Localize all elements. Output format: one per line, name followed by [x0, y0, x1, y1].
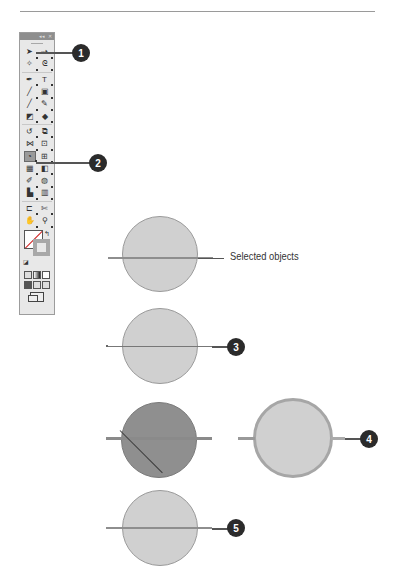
scale-tool[interactable]: ⧉	[39, 126, 51, 137]
flyout-indicator	[51, 84, 53, 86]
width-icon: ⋈	[26, 140, 34, 148]
flyout-indicator	[36, 57, 38, 59]
screen-mode-icon[interactable]	[30, 292, 44, 302]
paintbrush-tool[interactable]: ╱	[24, 99, 36, 110]
draw-normal-button[interactable]	[24, 281, 32, 289]
mesh-icon: ▦	[26, 165, 34, 173]
rotate-tool[interactable]: ↺	[24, 126, 36, 137]
lasso-tool[interactable]: ᘓ	[39, 59, 51, 70]
pencil-tool[interactable]: ✎	[39, 99, 51, 110]
callout-2-badge: 2	[89, 154, 107, 172]
gradient-button[interactable]	[33, 271, 41, 279]
artboard-icon: ⊏	[26, 205, 33, 213]
stroke-swatch[interactable]	[33, 239, 50, 256]
tool-separator	[22, 124, 52, 125]
blend-tool[interactable]: ◍	[39, 176, 51, 187]
slice-tool[interactable]: ✄	[39, 203, 51, 214]
perspective-grid-icon: ⊞	[41, 153, 48, 161]
flyout-indicator	[36, 173, 38, 175]
callout-1-badge: 1	[72, 44, 90, 62]
flyout-indicator	[36, 84, 38, 86]
fill-stroke-control: ↰ ◪	[23, 229, 51, 269]
flyout-indicator	[51, 121, 53, 123]
flyout-indicator	[36, 226, 38, 228]
collapse-icon[interactable]: ◂◂	[39, 34, 45, 39]
callout-4-badge: 4	[360, 430, 378, 448]
eyedropper-tool[interactable]: ✐	[24, 176, 36, 187]
default-fill-stroke-icon[interactable]: ◪	[23, 258, 29, 265]
callout-5-badge: 5	[227, 519, 245, 537]
draw-behind-button[interactable]	[33, 281, 41, 289]
rectangle-tool[interactable]: ▣	[39, 87, 51, 98]
path-highlighted[interactable]	[106, 437, 212, 440]
free-transform-tool[interactable]: ⊡	[39, 139, 51, 150]
callout-4-leader	[345, 438, 361, 440]
slice-icon: ✄	[41, 205, 48, 213]
blob-brush-icon: ◩	[26, 113, 34, 121]
gradient-tool[interactable]: ◧	[39, 163, 51, 174]
scale-icon: ⧉	[42, 128, 48, 136]
selection-tool[interactable]: ➤	[24, 47, 36, 58]
shape-builder-tool[interactable]: ◔	[24, 151, 36, 162]
circle-selected[interactable]	[122, 216, 198, 292]
tool-row: ▙▥	[20, 187, 54, 199]
flyout-indicator	[36, 121, 38, 123]
line-segment-icon: ╱	[27, 88, 32, 96]
path-step3[interactable]	[106, 346, 212, 347]
rectangle-icon: ▣	[41, 88, 49, 96]
path-stub-right[interactable]	[331, 437, 345, 440]
color-mode-row	[20, 271, 54, 279]
tools-panel: ◂◂ ✕ ➤⇢✧ᘓ✒T╱▣╱✎◩◆↺⧉⋈⊡◔⊞▦◧✐◍▙▥⊏✄✋⚲ ↰ ◪	[19, 32, 55, 315]
perspective-grid-tool[interactable]: ⊞	[39, 151, 51, 162]
tool-row: ◩◆	[20, 110, 54, 122]
eyedropper-icon: ✐	[26, 177, 33, 185]
zoom-tool[interactable]: ⚲	[39, 216, 51, 227]
callout-1-leader	[36, 52, 74, 54]
blend-icon: ◍	[41, 177, 48, 185]
panel-grip[interactable]	[31, 43, 43, 44]
circle-merged[interactable]	[253, 398, 333, 478]
shape-builder-icon: ◔	[27, 153, 32, 161]
pencil-icon: ✎	[41, 100, 48, 108]
flyout-indicator	[51, 57, 53, 59]
tool-separator	[22, 201, 52, 202]
hand-icon: ✋	[25, 217, 35, 225]
path-anchor-left	[106, 345, 108, 347]
zoom-icon: ⚲	[42, 217, 48, 225]
gradient-icon: ◧	[41, 165, 49, 173]
tool-row: ↺⧉	[20, 126, 54, 138]
blob-brush-tool[interactable]: ◩	[24, 111, 36, 122]
close-icon[interactable]: ✕	[48, 34, 52, 39]
tools-panel-header[interactable]: ◂◂ ✕	[20, 33, 54, 40]
flyout-indicator	[36, 198, 38, 200]
hand-tool[interactable]: ✋	[24, 216, 36, 227]
symbol-sprayer-tool[interactable]: ▙	[24, 188, 36, 199]
flyout-indicator	[51, 173, 53, 175]
width-tool[interactable]: ⋈	[24, 139, 36, 150]
page-rule	[20, 11, 375, 12]
draw-inside-button[interactable]	[42, 281, 50, 289]
eraser-tool[interactable]: ◆	[39, 111, 51, 122]
tool-row: ▦◧	[20, 163, 54, 175]
swap-fill-stroke-icon[interactable]: ↰	[44, 230, 50, 238]
artboard-tool[interactable]: ⊏	[24, 203, 36, 214]
column-graph-tool[interactable]: ▥	[39, 188, 51, 199]
paintbrush-icon: ╱	[27, 100, 32, 108]
mesh-tool[interactable]: ▦	[24, 163, 36, 174]
magic-wand-tool[interactable]: ✧	[24, 59, 36, 70]
path-step5[interactable]	[106, 527, 212, 529]
type-tool[interactable]: T	[39, 74, 51, 85]
pen-tool[interactable]: ✒	[24, 74, 36, 85]
color-button[interactable]	[24, 271, 32, 279]
path-stub-left[interactable]	[238, 437, 255, 440]
flyout-indicator	[51, 69, 53, 71]
none-button[interactable]	[42, 271, 50, 279]
flyout-indicator	[51, 149, 53, 151]
callout-2-leader	[36, 162, 91, 164]
type-icon: T	[42, 76, 47, 84]
free-transform-icon: ⊡	[41, 140, 48, 148]
flyout-indicator	[36, 213, 38, 215]
flyout-indicator	[36, 97, 38, 99]
line-segment-tool[interactable]: ╱	[24, 87, 36, 98]
circle-highlighted[interactable]	[121, 402, 197, 478]
